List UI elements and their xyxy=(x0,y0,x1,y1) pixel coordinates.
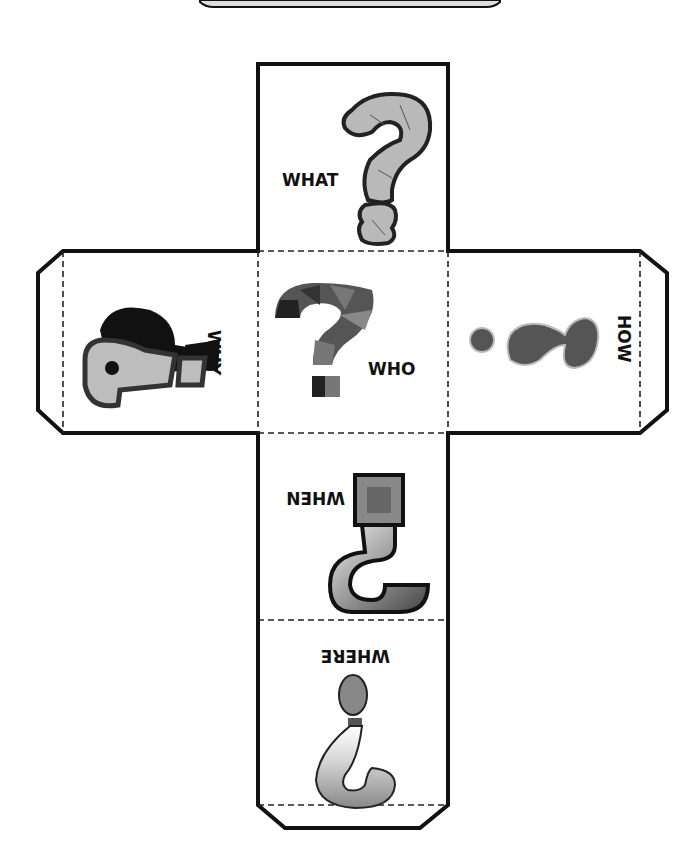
face-where: WHERE xyxy=(316,646,395,808)
face-label-why: WHY xyxy=(204,330,224,376)
face-when: WHEN xyxy=(286,475,428,612)
face-label-what: WHAT xyxy=(282,170,339,190)
face-label-when: WHEN xyxy=(286,488,345,508)
dice-net: WHAT WHY WHO HOW xyxy=(0,0,700,859)
top-banner xyxy=(200,0,500,7)
face-how: HOW xyxy=(470,315,634,368)
curly-question-mark-icon xyxy=(316,675,395,808)
face-label-how: HOW xyxy=(614,315,634,363)
face-label-where: WHERE xyxy=(321,646,390,666)
face-label-who: WHO xyxy=(368,359,415,379)
dice-template: WHAT WHY WHO HOW xyxy=(0,0,700,859)
3d-question-mark-icon xyxy=(85,308,220,406)
face-why: WHY xyxy=(85,308,224,406)
mosaic-question-mark-icon xyxy=(275,283,374,397)
blob-question-mark-icon xyxy=(470,318,598,368)
face-who: WHO xyxy=(275,283,415,397)
stone-question-mark-icon xyxy=(344,94,431,244)
face-what: WHAT xyxy=(282,94,430,244)
